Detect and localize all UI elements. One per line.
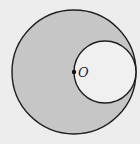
geometry-diagram: O bbox=[0, 0, 140, 144]
center-point-dot bbox=[72, 70, 76, 74]
center-label: O bbox=[78, 65, 89, 80]
